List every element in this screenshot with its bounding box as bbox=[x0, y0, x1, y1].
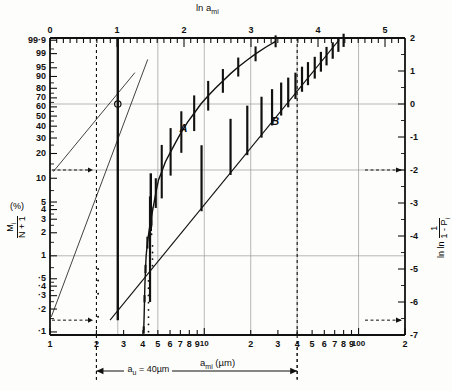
bottom-axis-units: (µm) bbox=[215, 357, 235, 368]
left-tick-label: 90 bbox=[36, 71, 46, 81]
left-tick-label: 2 bbox=[41, 227, 46, 237]
dot-marker bbox=[152, 245, 154, 247]
dot-marker bbox=[152, 252, 154, 254]
bottom-tick-label: 10 bbox=[200, 339, 209, 348]
left-tick-label: 1 bbox=[41, 250, 46, 260]
dot-marker bbox=[151, 233, 153, 235]
right-tick-label: 2 bbox=[410, 33, 415, 43]
right-axis-numerator: 1 bbox=[430, 226, 439, 231]
left-tick-label: ·4 bbox=[38, 281, 46, 291]
arrow-head-right bbox=[290, 368, 297, 374]
top-tick-label: 3 bbox=[248, 25, 253, 35]
dot-marker bbox=[148, 302, 150, 304]
arrow-head bbox=[88, 167, 93, 172]
dot-marker bbox=[148, 280, 150, 282]
left-tick-label: 20 bbox=[36, 148, 46, 158]
bottom-tick-label: 4 bbox=[295, 339, 300, 349]
annotation-label-sub: u bbox=[132, 369, 136, 376]
arrow-head bbox=[88, 318, 93, 323]
top-tick-label: 1 bbox=[114, 25, 119, 35]
bottom-tick-label: 2 bbox=[94, 339, 99, 349]
right-tick-label: 0 bbox=[410, 99, 415, 109]
annotation-value: = 40µm bbox=[139, 364, 169, 374]
bottom-axis-title: ami (µm) bbox=[200, 357, 235, 370]
left-tick-label: ·2 bbox=[38, 304, 46, 314]
top-tick-label: 4 bbox=[315, 25, 320, 35]
left-tick-label: 80 bbox=[36, 83, 46, 93]
left-tick-label: 40 bbox=[36, 121, 46, 131]
left-axis-num-text: M bbox=[5, 224, 15, 232]
fit-line-b bbox=[110, 40, 339, 321]
bottom-tick-label: 6 bbox=[322, 339, 327, 349]
annotation-au: au = 40µm bbox=[124, 364, 172, 376]
right-axis-denominator: 1 - Pi bbox=[440, 218, 451, 239]
left-axis-denominator: N + 1 bbox=[18, 216, 27, 238]
right-axis-den-text: 1 - P bbox=[439, 219, 449, 238]
bottom-tick-label: 5 bbox=[155, 339, 160, 349]
left-axis-percent: (%) bbox=[10, 201, 24, 211]
reference-line bbox=[53, 73, 135, 172]
bottom-tick-label: 4 bbox=[140, 339, 145, 349]
left-tick-label: 10 bbox=[36, 173, 46, 183]
right-axis-den-sub: i bbox=[444, 218, 451, 220]
dot-marker bbox=[97, 268, 99, 270]
bottom-tick-label: 6 bbox=[168, 339, 173, 349]
left-tick-label: 3 bbox=[41, 214, 46, 224]
bottom-tick-label: 2 bbox=[402, 339, 407, 349]
right-axis-title: ln ln 1 1 - Pi bbox=[430, 218, 452, 258]
left-tick-label: 4 bbox=[41, 204, 46, 214]
left-tick-label: ·3 bbox=[38, 290, 46, 300]
top-axis-title: ln ami bbox=[196, 2, 219, 15]
right-tick-label: -2 bbox=[410, 165, 418, 175]
dot-marker bbox=[97, 293, 99, 295]
dot-marker bbox=[148, 316, 150, 318]
reference-line bbox=[51, 59, 147, 316]
left-tick-label: 99·9 bbox=[28, 35, 46, 45]
right-tick-label: 1 bbox=[410, 66, 415, 76]
right-tick-label: -6 bbox=[410, 297, 418, 307]
bottom-tick-label: 8 bbox=[187, 339, 192, 349]
left-tick-label: 30 bbox=[36, 133, 46, 143]
bottom-tick-label: 7 bbox=[178, 339, 183, 349]
right-tick-label: -5 bbox=[410, 264, 418, 274]
dot-marker bbox=[97, 280, 99, 282]
right-tick-label: -3 bbox=[410, 198, 418, 208]
curve-a-label: A bbox=[179, 122, 187, 134]
bottom-tick-label: 7 bbox=[332, 339, 337, 349]
left-axis-numerator: Mi bbox=[6, 223, 17, 232]
dot-marker bbox=[151, 225, 153, 227]
bottom-tick-label: 1 bbox=[47, 339, 52, 349]
top-axis-title-text: ln a bbox=[196, 2, 211, 13]
top-tick-label: 0 bbox=[47, 25, 52, 35]
dot-marker bbox=[148, 287, 150, 289]
arrow-head bbox=[396, 167, 402, 172]
arrow-head-left bbox=[96, 368, 103, 374]
dot-marker bbox=[97, 316, 99, 318]
bottom-tick-label: 3 bbox=[275, 339, 280, 349]
left-tick-label: 50 bbox=[36, 111, 46, 121]
plot-canvas bbox=[0, 0, 452, 391]
dot-marker bbox=[148, 309, 150, 311]
top-tick-label: 5 bbox=[382, 25, 387, 35]
bottom-tick-label: 5 bbox=[310, 339, 315, 349]
right-tick-label: -1 bbox=[410, 132, 418, 142]
dot-marker bbox=[148, 295, 150, 297]
dot-marker bbox=[148, 331, 150, 333]
left-axis-num-sub: i bbox=[10, 223, 17, 225]
bottom-tick-label: 2 bbox=[248, 339, 253, 349]
right-tick-label: -4 bbox=[410, 231, 418, 241]
top-axis-title-sub: mi bbox=[211, 8, 218, 15]
left-tick-label: 99 bbox=[36, 48, 46, 58]
bottom-axis-title-sub: mi bbox=[205, 363, 212, 370]
top-tick-label: 2 bbox=[181, 25, 186, 35]
bottom-tick-label: 100 bbox=[352, 339, 365, 348]
dot-marker bbox=[148, 324, 150, 326]
curve-a-path bbox=[144, 41, 276, 330]
bottom-tick-label: 8 bbox=[341, 339, 346, 349]
curve-b-label: B bbox=[271, 115, 279, 127]
dot-marker bbox=[152, 258, 154, 260]
left-tick-label: ·1 bbox=[38, 326, 46, 336]
weibull-probability-plot: ln ami ami (µm) Mi N + 1 (%) ln ln 1 1 -… bbox=[0, 0, 452, 391]
right-axis-title-text: ln ln bbox=[436, 241, 446, 258]
left-axis-title: Mi N + 1 (%) bbox=[6, 199, 28, 238]
